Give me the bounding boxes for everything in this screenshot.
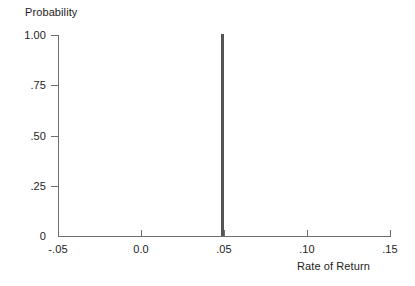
x-tick-label: -.05 xyxy=(28,243,88,255)
x-tick-label: .05 xyxy=(194,243,254,255)
x-tick-mark xyxy=(224,230,225,236)
x-tick-mark xyxy=(141,230,142,236)
y-tick-mark xyxy=(51,85,58,86)
x-tick-mark xyxy=(390,230,391,236)
x-tick-label: 0.0 xyxy=(111,243,171,255)
y-tick-label: .50 xyxy=(4,131,46,142)
probability-distribution-chart: Probability 1.00 .75 .50 .25 0 -.05 0.0 … xyxy=(0,0,415,286)
y-tick-label: .75 xyxy=(4,80,46,91)
y-tick-mark xyxy=(51,35,58,36)
data-spike xyxy=(221,34,224,236)
y-axis-title: Probability xyxy=(25,6,77,19)
x-axis-title: Rate of Return xyxy=(297,260,370,273)
x-tick-mark xyxy=(307,230,308,236)
x-tick-label: .10 xyxy=(277,243,337,255)
y-tick-label: .25 xyxy=(4,181,46,192)
x-tick-mark xyxy=(58,230,59,236)
y-axis-line xyxy=(58,35,59,237)
x-tick-label: .15 xyxy=(360,243,415,255)
y-tick-label: 0 xyxy=(4,231,46,242)
y-tick-mark xyxy=(51,186,58,187)
x-axis-line xyxy=(58,236,391,237)
y-tick-mark xyxy=(51,136,58,137)
y-tick-label: 1.00 xyxy=(4,30,46,41)
